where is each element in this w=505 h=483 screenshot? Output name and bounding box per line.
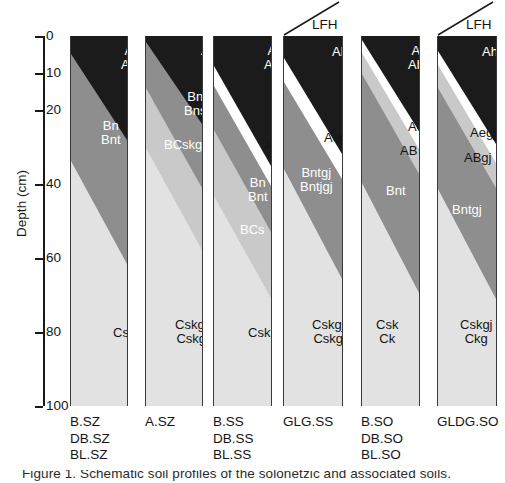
soil-profile-column-3: Ah Ahe Ae Bn Bnt BCs Csk bbox=[213, 36, 272, 406]
axis-tick-10 bbox=[35, 73, 43, 75]
depth-axis: 0 10 20 40 60 80 100 Depth (cm) bbox=[0, 0, 70, 483]
lfh-label-4: LFH bbox=[312, 17, 338, 32]
axis-label-10: 10 bbox=[46, 66, 61, 80]
lfh-callout-column-6: LFH bbox=[437, 0, 505, 40]
axis-tick-0 bbox=[35, 36, 43, 38]
axis-label-60: 60 bbox=[46, 251, 61, 265]
profile-6-layers bbox=[438, 36, 496, 406]
profile-3-layers bbox=[214, 36, 271, 406]
site-label-column-4: GLG.SS bbox=[283, 414, 333, 431]
profile-1-layers bbox=[71, 36, 127, 406]
profile-2-layers bbox=[146, 36, 202, 406]
soil-profile-column-1: Ah Ahe Bn Bnt Csk bbox=[70, 36, 128, 406]
site-label-column-3: B.SS DB.SS BL.SS bbox=[213, 414, 254, 464]
axis-title: Depth (cm) bbox=[14, 144, 29, 264]
profile-5-layers bbox=[362, 36, 419, 406]
soil-profile-column-5: Ah Ahe Ae AB Bnt Csk Ck bbox=[361, 36, 420, 406]
axis-label-80: 80 bbox=[46, 325, 61, 339]
profile-4-layers bbox=[284, 36, 342, 406]
soil-profile-column-4: Ah Aegj Bntgj Bntjgj Cskgj Cskg bbox=[283, 36, 343, 406]
axis-tick-40 bbox=[35, 184, 43, 186]
axis-spine bbox=[43, 36, 45, 406]
soil-profile-figure: 0 10 20 40 60 80 100 Depth (cm) Ah Ahe B… bbox=[0, 0, 505, 483]
site-label-column-6: GLDG.SO bbox=[437, 414, 499, 431]
site-label-column-1: B.SZ DB.SZ BL.SZ bbox=[70, 414, 110, 464]
lfh-label-6: LFH bbox=[466, 17, 492, 32]
figure-caption-text: Figure 1. Schematic soil profiles of the… bbox=[22, 470, 451, 481]
axis-label-0: 0 bbox=[46, 29, 54, 43]
site-label-column-5: B.SO DB.SO BL.SO bbox=[361, 414, 403, 464]
axis-label-100: 100 bbox=[46, 399, 69, 413]
axis-label-40: 40 bbox=[46, 177, 61, 191]
axis-tick-60 bbox=[35, 258, 43, 260]
figure-caption-clipped: Figure 1. Schematic soil profiles of the… bbox=[0, 470, 505, 483]
axis-tick-80 bbox=[35, 332, 43, 334]
soil-profile-column-6: Ah Aegj ABgj Bntgj Cskgj Ckg bbox=[437, 36, 497, 406]
lfh-callout-column-4: LFH bbox=[283, 0, 365, 40]
site-label-column-2: A.SZ bbox=[145, 414, 175, 431]
axis-tick-20 bbox=[35, 110, 43, 112]
axis-label-20: 20 bbox=[46, 103, 61, 117]
soil-profile-column-2: Ah Bn Bns BCskgj Cskgj Cskg bbox=[145, 36, 203, 406]
axis-tick-100 bbox=[35, 406, 43, 408]
